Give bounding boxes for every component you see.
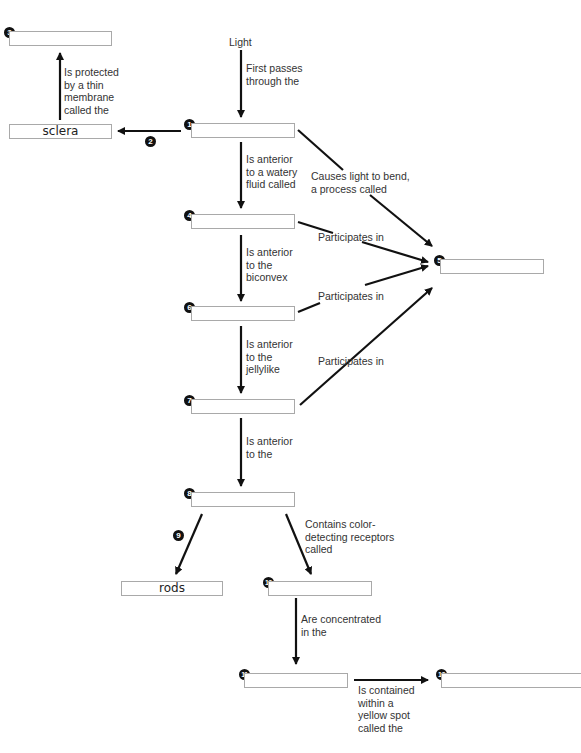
answer-box-3[interactable]	[9, 31, 112, 46]
answer-box-2-sclera[interactable]: sclera	[9, 124, 112, 139]
arrow-4-to-5b	[362, 242, 428, 262]
link-label-1-to-4: Is anterior to a watery fluid called	[246, 153, 297, 191]
arrow-7-to-5	[300, 288, 432, 405]
answer-box-6[interactable]	[191, 306, 295, 321]
arrow-1-to-5a	[298, 130, 343, 170]
answer-box-7[interactable]	[191, 399, 295, 414]
answer-box-9-rods[interactable]: rods	[121, 581, 223, 596]
link-label-6-to-7: Is anterior to the jellylike	[246, 338, 293, 376]
start-label-light: Light	[229, 36, 252, 49]
link-label-10-to-11: Are concentrated in the	[301, 613, 381, 638]
link-label-7-to-8: Is anterior to the	[246, 435, 293, 460]
link-label-1-to-5: Causes light to bend, a process called	[311, 170, 410, 195]
answer-box-8[interactable]	[191, 492, 295, 507]
link-label-sclera-to-3: Is protected by a thin membrane called t…	[64, 66, 119, 116]
answer-box-11[interactable]	[244, 673, 348, 688]
link-label-11-to-12: Is contained within a yellow spot called…	[358, 684, 415, 734]
answer-box-5[interactable]	[440, 259, 544, 274]
link-label-6-to-5: Participates in	[318, 290, 384, 303]
link-label-light-to-1: First passes through the	[246, 62, 303, 87]
answer-box-12[interactable]	[441, 673, 581, 688]
link-label-4-to-6: Is anterior to the biconvex	[246, 246, 293, 284]
answer-box-1[interactable]	[191, 123, 295, 138]
link-label-4-to-5: Participates in	[318, 231, 384, 244]
answer-box-10[interactable]	[268, 581, 372, 596]
arrow-8-to-9	[176, 514, 202, 574]
marker-9: 9	[173, 530, 184, 541]
arrow-6-to-5b	[365, 266, 428, 285]
link-label-8-to-10: Contains color- detecting receptors call…	[305, 518, 394, 556]
answer-box-4[interactable]	[191, 214, 295, 229]
link-label-7-to-5: Participates in	[318, 355, 384, 368]
arrow-6-to-5a	[298, 303, 320, 312]
marker-2: 2	[145, 136, 156, 147]
